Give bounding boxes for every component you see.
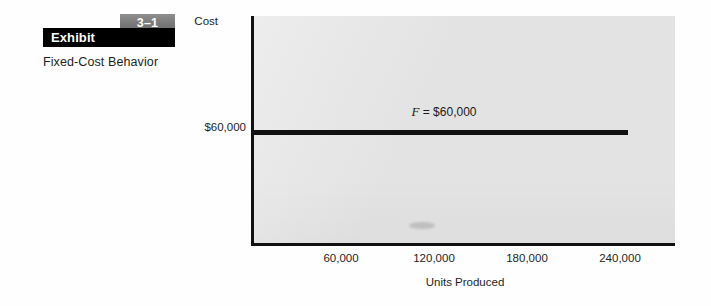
x-axis-tick-label-60000: 60,000 <box>323 252 358 264</box>
scan-artifact <box>409 222 435 229</box>
x-axis-tick-label-240000: 240,000 <box>599 252 641 264</box>
y-axis-tick-label-60000: $60,000 <box>204 121 246 133</box>
x-axis-tick-label-120000: 120,000 <box>413 252 455 264</box>
fixed-cost-line-series <box>254 130 628 135</box>
y-axis-title: Cost <box>194 15 218 27</box>
exhibit-word-label: Exhibit <box>51 28 95 47</box>
x-axis-tick-label-180000: 180,000 <box>506 252 548 264</box>
fixed-cost-annotation: F = $60,000 <box>411 104 476 120</box>
fixed-cost-annotation-value: = $60,000 <box>419 105 476 119</box>
fixed-cost-variable-symbol: F <box>411 104 419 119</box>
x-axis-title: Units Produced <box>426 276 505 288</box>
x-axis-line <box>251 243 675 246</box>
exhibit-page: 3–1 Exhibit Fixed-Cost Behavior Cost $60… <box>0 0 711 306</box>
